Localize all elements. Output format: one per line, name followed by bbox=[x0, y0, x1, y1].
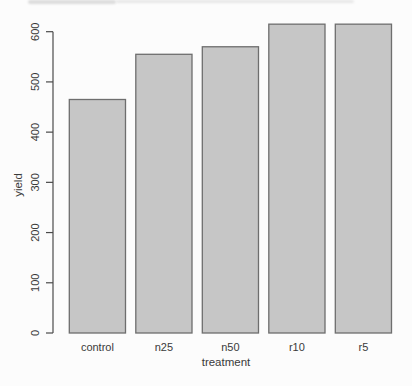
y-tick-label: 100 bbox=[29, 274, 41, 292]
bar-r5 bbox=[335, 24, 391, 333]
y-tick-label: 400 bbox=[29, 123, 41, 141]
bars bbox=[69, 24, 391, 333]
x-tick-label-r5: r5 bbox=[359, 341, 369, 353]
x-tick-label-n50: n50 bbox=[221, 341, 239, 353]
y-axis: 0100200300400500600 bbox=[29, 23, 53, 337]
y-tick-label: 600 bbox=[29, 23, 41, 41]
bar-chart: 0100200300400500600 controln25n50r10r5 t… bbox=[0, 0, 412, 386]
figure: 0100200300400500600 controln25n50r10r5 t… bbox=[0, 0, 412, 386]
bar-control bbox=[69, 99, 125, 333]
x-tick-label-r10: r10 bbox=[289, 341, 305, 353]
y-tick-label: 500 bbox=[29, 73, 41, 91]
x-tick-label-n25: n25 bbox=[155, 341, 173, 353]
bar-n50 bbox=[202, 47, 258, 333]
y-axis-title: yield bbox=[12, 173, 24, 197]
y-tick-label: 200 bbox=[29, 223, 41, 241]
bar-n25 bbox=[136, 54, 192, 333]
y-tick-label: 0 bbox=[29, 330, 41, 336]
bar-r10 bbox=[269, 24, 325, 333]
y-tick-label: 300 bbox=[29, 173, 41, 191]
x-tick-label-control: control bbox=[81, 341, 114, 353]
x-axis-title: treatment bbox=[202, 356, 251, 368]
x-tick-labels: controln25n50r10r5 bbox=[81, 341, 368, 353]
